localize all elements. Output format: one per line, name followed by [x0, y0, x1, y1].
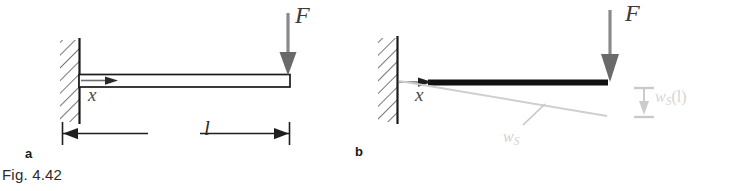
- deflection-curve-label-sub: S: [514, 135, 520, 147]
- dimension-line-length: [63, 122, 290, 145]
- fixed-support-hatch-icon: [60, 38, 80, 124]
- deflection-curve-label: wS: [503, 128, 519, 147]
- tip-deflection-label-arg: (l): [671, 88, 686, 105]
- fixed-support-hatch-icon-b: [378, 36, 398, 124]
- tip-deflection-measure: [634, 88, 654, 117]
- length-label-l: l: [204, 116, 210, 141]
- deflection-curve-label-base: w: [503, 128, 514, 145]
- panel-b: [378, 10, 654, 125]
- force-label-b: F: [625, 0, 640, 27]
- figure-caption: Fig. 4.42: [2, 166, 62, 183]
- axis-label-x-a: x: [88, 84, 96, 106]
- figure-canvas: [0, 0, 739, 191]
- force-arrow-a: [280, 13, 297, 76]
- panel-label-b: b: [355, 144, 363, 159]
- panel-label-a: a: [25, 146, 32, 161]
- tip-deflection-label-base: w: [655, 88, 666, 105]
- tip-deflection-label: wS(l): [655, 88, 687, 107]
- deflection-curve-wS: [399, 81, 607, 125]
- force-arrow-b: [601, 10, 619, 82]
- axis-label-x-b: x: [415, 84, 423, 106]
- force-label-a: F: [295, 2, 310, 29]
- panel-a: [60, 13, 297, 145]
